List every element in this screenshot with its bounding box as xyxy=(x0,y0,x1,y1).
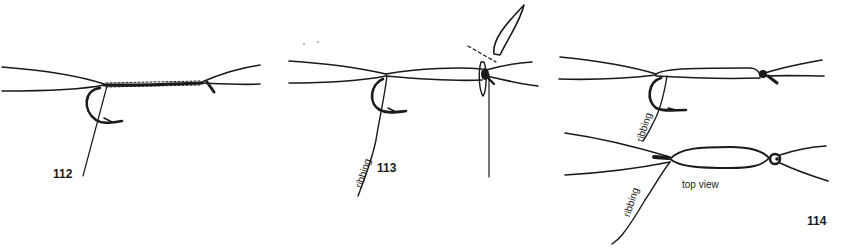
top-view-label: top view xyxy=(682,180,719,190)
figure-number-114: 114 xyxy=(807,215,826,227)
figure-number-113: 113 xyxy=(377,162,396,174)
fly-tying-illustrations xyxy=(0,0,856,251)
figure-114-side-view-drawing xyxy=(559,57,824,141)
diagram-canvas: 112 113 ribbing ribbing ribbing top view… xyxy=(0,0,856,251)
figure-112-drawing xyxy=(2,65,260,176)
figure-number-112: 112 xyxy=(53,168,72,180)
figure-113-drawing xyxy=(289,5,538,196)
